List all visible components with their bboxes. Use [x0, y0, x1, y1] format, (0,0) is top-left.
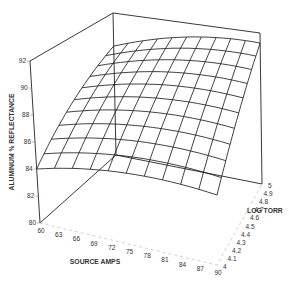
x-tick-label: 60 — [37, 227, 45, 234]
x-tick-label: 72 — [108, 244, 116, 251]
x-axis-label: SOURCE AMPS — [70, 258, 121, 265]
floor-axes — [40, 184, 262, 265]
y-tick-label: 4 — [223, 263, 227, 270]
y-tick-label: 4.4 — [241, 231, 250, 238]
y-tick-label: 4.9 — [264, 190, 273, 197]
x-tick-label: 84 — [179, 261, 187, 268]
x-tick-label: 78 — [144, 252, 152, 259]
x-tick-label: 75 — [126, 248, 134, 255]
x-tick-label: 90 — [214, 269, 222, 276]
z-tick-label: 90 — [20, 84, 28, 91]
y-tick-label: 4.1 — [228, 255, 237, 262]
x-tick-label: 81 — [161, 256, 169, 263]
x-tick-label: 87 — [197, 265, 205, 272]
chart-frame — [30, 13, 262, 223]
z-tick-label: 80 — [29, 219, 37, 226]
y-tick-label: 4.2 — [232, 247, 241, 254]
response-surface — [37, 37, 260, 195]
x-tick-label: 69 — [90, 240, 98, 247]
surface-chart: 80828486889092 6063666972757881848790 44… — [0, 0, 289, 284]
x-tick-label: 63 — [55, 231, 63, 238]
z-tick-label: 92 — [19, 57, 27, 64]
z-tick-label: 86 — [24, 138, 32, 145]
y-tick-label: 4.5 — [246, 223, 255, 230]
y-tick-label: 5 — [268, 182, 272, 189]
y-axis-ticks: 44.14.24.34.44.54.64.74.84.95 — [223, 182, 273, 270]
x-axis-ticks: 6063666972757881848790 — [37, 227, 222, 276]
x-tick-label: 66 — [73, 235, 81, 242]
z-tick-label: 84 — [25, 165, 33, 172]
y-tick-label: 4.8 — [259, 198, 268, 205]
z-axis-ticks: 80828486889092 — [19, 57, 40, 226]
y-tick-label: 4.6 — [250, 214, 259, 221]
y-tick-label: 4.3 — [237, 239, 246, 246]
z-tick-label: 88 — [22, 111, 30, 118]
y-axis-label: LOG TORR — [247, 207, 283, 214]
z-tick-label: 82 — [27, 192, 35, 199]
z-axis-label: ALUMINUM % REFLECTANCE — [8, 93, 15, 190]
